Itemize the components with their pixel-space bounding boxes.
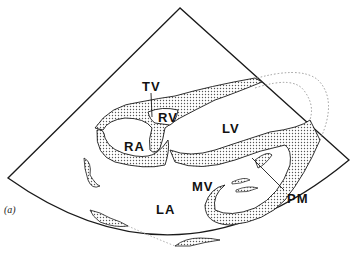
myocardium-upper — [95, 78, 262, 152]
pm-pointer — [252, 158, 284, 190]
tissue-fragment-left — [84, 158, 100, 187]
label-right-atrium: RA — [124, 140, 145, 153]
la-dotted-connector — [128, 226, 175, 246]
la-wall-fragment-bottom — [175, 238, 220, 246]
label-left-atrium: LA — [156, 203, 175, 216]
panel-label: (a) — [4, 204, 16, 215]
myocardium-lower-wall — [170, 120, 320, 225]
mitral-leaflet-1 — [232, 178, 250, 184]
mitral-leaflet-2 — [236, 187, 258, 192]
la-wall-fragment-left — [90, 210, 128, 227]
label-mitral-valve: MV — [192, 180, 214, 193]
label-left-ventricle: LV — [222, 122, 240, 135]
papillary-muscle — [255, 153, 272, 168]
label-tricuspid-valve: TV — [142, 80, 161, 93]
label-papillary-muscle: PM — [287, 192, 309, 205]
lv-apex-dotted-inner — [255, 82, 312, 130]
label-right-ventricle: RV — [158, 111, 178, 124]
echo-diagram — [0, 0, 357, 258]
